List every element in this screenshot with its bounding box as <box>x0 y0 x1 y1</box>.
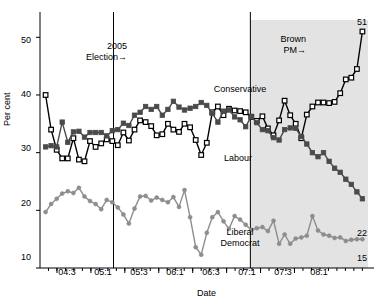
data-point-marker <box>266 129 270 133</box>
data-point-marker <box>210 111 214 115</box>
data-point-marker <box>327 101 332 106</box>
data-point-marker <box>316 155 320 159</box>
data-point-marker <box>171 99 175 103</box>
data-point-marker <box>149 199 153 203</box>
data-point-marker <box>221 109 225 113</box>
data-point-marker <box>188 215 192 219</box>
data-point-marker <box>288 113 293 118</box>
x-tick-label-7: 08:1 <box>305 267 333 277</box>
series-label-ld-line1: Liberal <box>205 227 275 238</box>
data-point-marker <box>105 198 109 202</box>
data-point-marker <box>83 195 87 199</box>
data-point-marker <box>194 245 198 249</box>
data-point-marker <box>177 105 181 109</box>
annotation-brown-pm: Brown PM→ <box>246 34 306 56</box>
data-point-marker <box>332 166 336 170</box>
annotation-brown-line1: Brown <box>246 34 306 45</box>
data-point-marker <box>66 189 70 193</box>
series-label-conservative: Conservative <box>203 84 277 95</box>
data-point-marker <box>216 104 221 109</box>
data-point-marker <box>71 130 75 134</box>
data-point-marker <box>322 233 326 237</box>
data-point-marker <box>355 67 360 72</box>
data-point-marker <box>305 112 310 117</box>
data-point-marker <box>282 127 286 131</box>
data-point-marker <box>260 127 264 131</box>
data-point-marker <box>177 130 182 135</box>
annotation-brown-line2: PM→ <box>246 45 306 56</box>
data-point-marker <box>143 104 147 108</box>
x-tick-label-6: 07:3 <box>269 267 297 277</box>
data-point-marker <box>166 200 170 204</box>
data-point-marker <box>49 127 54 132</box>
data-point-marker <box>88 130 92 134</box>
data-point-marker <box>188 106 192 110</box>
data-point-marker <box>360 197 364 201</box>
data-point-marker <box>43 93 48 98</box>
data-point-marker <box>121 212 125 216</box>
data-point-marker <box>288 242 292 246</box>
data-point-marker <box>133 207 137 211</box>
data-point-marker <box>116 127 120 131</box>
end-label-labour: 22 <box>357 228 367 238</box>
data-point-marker <box>321 151 325 155</box>
data-point-marker <box>155 104 159 108</box>
data-point-marker <box>127 123 131 127</box>
data-point-marker <box>177 205 181 209</box>
data-point-marker <box>71 191 75 195</box>
data-point-marker <box>282 98 287 103</box>
arrow-right-icon: → <box>297 45 306 55</box>
data-point-marker <box>132 127 137 132</box>
data-point-marker <box>199 100 203 104</box>
data-point-marker <box>110 129 114 133</box>
data-point-marker <box>344 177 348 181</box>
data-point-marker <box>332 100 337 105</box>
data-point-marker <box>155 196 159 200</box>
data-point-marker <box>338 235 342 239</box>
data-point-marker <box>93 145 98 150</box>
data-point-marker <box>121 121 125 125</box>
data-point-marker <box>55 197 59 201</box>
data-point-marker <box>349 75 354 80</box>
data-point-marker <box>205 103 209 107</box>
data-point-marker <box>44 210 48 214</box>
data-point-marker <box>160 132 165 137</box>
data-point-marker <box>238 218 242 222</box>
data-point-marker <box>216 120 220 124</box>
data-point-marker <box>43 145 47 149</box>
data-point-marker <box>60 156 65 161</box>
data-point-marker <box>321 100 326 105</box>
data-point-marker <box>349 238 353 242</box>
data-point-marker <box>127 138 132 143</box>
data-point-marker <box>305 142 309 146</box>
data-point-marker <box>360 29 365 34</box>
data-point-marker <box>333 236 337 240</box>
annotation-election-2005: 2005 Election→ <box>66 41 127 63</box>
data-point-marker <box>305 234 309 238</box>
x-tick-label-3: 06:1 <box>161 267 189 277</box>
y-tick-label-50: 50 <box>18 35 34 45</box>
data-point-marker <box>149 124 154 129</box>
annotation-election-line2: Election→ <box>66 52 127 63</box>
data-point-marker <box>138 118 143 123</box>
data-point-marker <box>132 113 136 117</box>
data-point-marker <box>99 207 103 211</box>
data-point-marker <box>138 195 142 199</box>
data-point-marker <box>77 186 81 190</box>
data-point-marker <box>310 214 314 218</box>
x-tick-label-0: 04:3 <box>53 267 81 277</box>
y-tick-label-30: 30 <box>18 143 34 153</box>
data-point-marker <box>233 214 237 218</box>
data-point-marker <box>110 200 114 204</box>
data-point-marker <box>243 110 248 115</box>
x-tick-label-4: 06:3 <box>197 267 225 277</box>
data-point-marker <box>149 107 153 111</box>
data-point-marker <box>338 91 343 96</box>
data-point-marker <box>294 126 298 130</box>
data-point-marker <box>171 127 176 132</box>
data-point-marker <box>160 113 164 117</box>
data-point-marker <box>327 159 331 163</box>
data-point-marker <box>143 120 148 125</box>
data-point-marker <box>49 202 53 206</box>
data-point-marker <box>238 118 242 122</box>
